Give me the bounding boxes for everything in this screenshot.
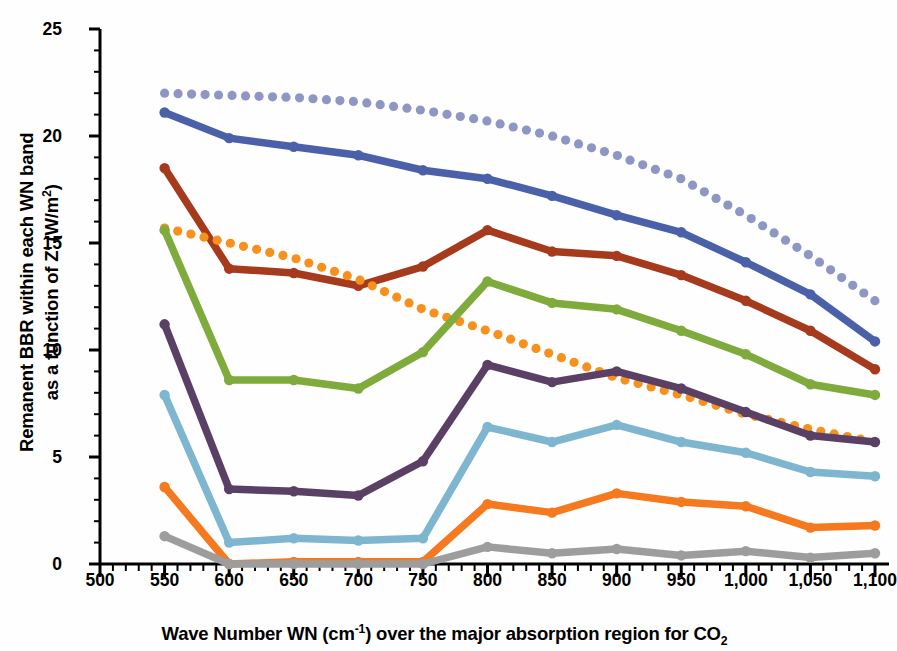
series-line <box>165 324 875 495</box>
series-dot <box>265 248 274 257</box>
series-marker <box>289 375 299 385</box>
series-dot <box>349 97 358 106</box>
series-dot <box>469 114 478 123</box>
series-dot <box>239 242 248 251</box>
series-marker <box>482 422 492 432</box>
series-marker <box>547 246 557 256</box>
series-line <box>165 168 875 369</box>
series-dot <box>638 160 647 169</box>
series-dot <box>322 95 331 104</box>
series-dot <box>241 91 250 100</box>
series-dot <box>700 187 709 196</box>
series-lightblue-solid <box>159 390 880 548</box>
series-dot <box>481 325 490 334</box>
series-dot <box>281 93 290 102</box>
series-marker <box>482 499 492 509</box>
series-dot <box>442 110 451 119</box>
series-dot <box>676 174 685 183</box>
series-marker <box>482 360 492 370</box>
series-dot <box>482 116 491 125</box>
series-marker <box>676 497 686 507</box>
series-marker <box>611 366 621 376</box>
series-marker <box>547 437 557 447</box>
series-marker <box>741 407 751 417</box>
series-dot <box>651 165 660 174</box>
series-marker <box>611 210 621 220</box>
series-dot <box>429 308 438 317</box>
series-dot <box>509 122 518 131</box>
series-marker <box>224 559 234 569</box>
series-marker <box>741 296 751 306</box>
series-dot <box>600 147 609 156</box>
series-dot <box>613 151 622 160</box>
series-dot <box>200 90 209 99</box>
series-marker <box>482 174 492 184</box>
series-dot <box>544 348 553 357</box>
series-marker <box>805 430 815 440</box>
series-marker <box>805 379 815 389</box>
series-dot <box>711 194 720 203</box>
series-marker <box>547 298 557 308</box>
series-marker <box>870 520 880 530</box>
series-dot <box>723 200 732 209</box>
series-marker <box>741 349 751 359</box>
series-marker <box>676 383 686 393</box>
series-marker <box>870 390 880 400</box>
series-marker <box>224 375 234 385</box>
series-marker <box>289 268 299 278</box>
series-dot <box>173 226 182 235</box>
series-marker <box>870 471 880 481</box>
series-dot <box>376 100 385 109</box>
series-marker <box>159 107 169 117</box>
series-marker <box>224 133 234 143</box>
series-dot <box>199 233 208 242</box>
series-marker <box>547 377 557 387</box>
series-marker <box>159 225 169 235</box>
series-dot <box>582 362 591 371</box>
series-dot <box>355 276 364 285</box>
series-marker <box>805 289 815 299</box>
series-marker <box>159 163 169 173</box>
series-dot <box>456 112 465 121</box>
series-marker <box>676 270 686 280</box>
series-dot <box>735 207 744 216</box>
series-marker <box>159 319 169 329</box>
series-dot <box>392 293 401 302</box>
series-dot <box>389 102 398 111</box>
series-dot <box>343 271 352 280</box>
series-marker <box>224 484 234 494</box>
series-dot <box>792 243 801 252</box>
series-marker <box>224 537 234 547</box>
series-dot <box>416 105 425 114</box>
series-dot <box>380 287 389 296</box>
series-marker <box>289 533 299 543</box>
series-dot <box>213 236 222 245</box>
series-marker <box>418 559 428 569</box>
series-marker <box>418 456 428 466</box>
series-dot <box>548 132 557 141</box>
series-dot <box>214 90 223 99</box>
series-dot <box>758 221 767 230</box>
series-dot <box>226 239 235 248</box>
series-marker <box>482 225 492 235</box>
series-dot <box>254 92 263 101</box>
series-dot <box>769 228 778 237</box>
series-dot <box>663 169 672 178</box>
series-marker <box>353 535 363 545</box>
series-marker <box>159 531 169 541</box>
series-dot <box>160 89 169 98</box>
series-dot <box>227 91 236 100</box>
series-dot <box>826 265 835 274</box>
series-dot <box>688 181 697 190</box>
series-dot <box>625 156 634 165</box>
series-dot <box>535 128 544 137</box>
series-dot <box>308 94 317 103</box>
series-dot <box>304 258 313 267</box>
series-marker <box>547 548 557 558</box>
series-dot <box>747 214 756 223</box>
series-marker <box>418 347 428 357</box>
series-marker <box>676 550 686 560</box>
series-dot <box>291 254 300 263</box>
series-marker <box>547 191 557 201</box>
